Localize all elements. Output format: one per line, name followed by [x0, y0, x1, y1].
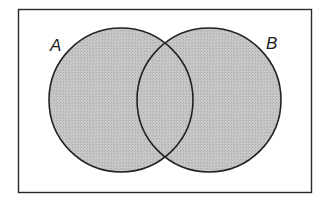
- set-a-label: A: [49, 36, 61, 55]
- venn-diagram: A B: [0, 0, 325, 198]
- set-b-label: B: [266, 34, 277, 53]
